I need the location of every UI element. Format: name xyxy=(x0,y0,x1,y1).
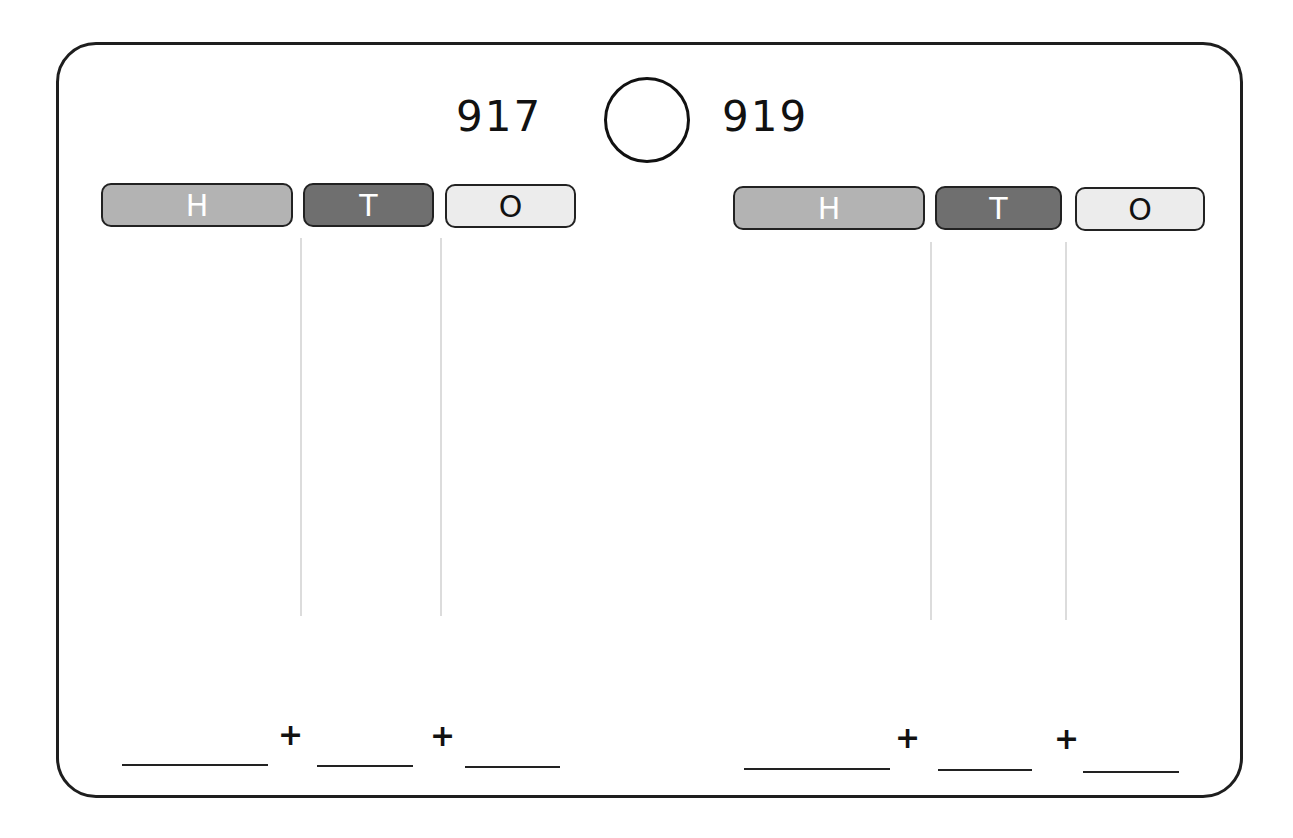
right-divider-2 xyxy=(1065,242,1067,620)
right-divider-1 xyxy=(930,242,932,620)
hundreds-label: H xyxy=(186,188,209,223)
left-divider-1 xyxy=(300,238,302,616)
tens-label: T xyxy=(989,191,1007,226)
left-divider-2 xyxy=(440,238,442,616)
left-hundreds-header: H xyxy=(101,183,293,227)
right-plus-1: + xyxy=(895,723,920,753)
right-number: 919 xyxy=(722,92,808,141)
left-tens-header: T xyxy=(303,183,434,227)
hundreds-label: H xyxy=(818,191,841,226)
ones-label: O xyxy=(1128,192,1152,227)
right-plus-2: + xyxy=(1054,724,1079,754)
right-hundreds-header: H xyxy=(733,186,925,230)
right-hundreds-blank[interactable] xyxy=(744,768,890,770)
comparison-circle[interactable] xyxy=(604,77,690,163)
right-ones-header: O xyxy=(1075,187,1205,231)
left-ones-blank[interactable] xyxy=(465,766,560,768)
left-plus-2: + xyxy=(430,721,455,751)
right-ones-blank[interactable] xyxy=(1083,771,1179,773)
right-tens-blank[interactable] xyxy=(938,769,1032,771)
tens-label: T xyxy=(359,188,377,223)
left-plus-1: + xyxy=(278,720,303,750)
left-hundreds-blank[interactable] xyxy=(122,764,268,766)
left-tens-blank[interactable] xyxy=(317,765,413,767)
right-tens-header: T xyxy=(935,186,1062,230)
ones-label: O xyxy=(499,189,523,224)
left-ones-header: O xyxy=(445,184,576,228)
left-number: 917 xyxy=(456,92,542,141)
